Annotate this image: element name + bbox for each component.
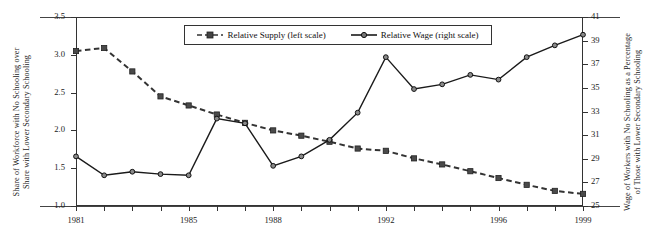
series-marker: [130, 169, 135, 174]
series-marker: [73, 48, 78, 53]
legend-swatch-square-dashed-icon: [197, 30, 223, 40]
legend-item-relative-supply[interactable]: Relative Supply (left scale): [197, 30, 325, 40]
series-marker: [355, 146, 360, 151]
series-line: [76, 48, 583, 194]
legend-swatch-circle-solid-icon: [351, 30, 377, 40]
series-marker: [383, 55, 388, 60]
series-marker: [102, 45, 107, 50]
series-marker: [299, 154, 304, 159]
series-marker: [186, 173, 191, 178]
series-marker: [412, 87, 417, 92]
legend-item-relative-wage[interactable]: Relative Wage (right scale): [351, 30, 479, 40]
figure-container: Share of Workforce with No Schooling ove…: [0, 0, 653, 238]
series-marker: [327, 137, 332, 142]
series-marker: [271, 163, 276, 168]
series-marker: [102, 173, 107, 178]
series-marker: [243, 121, 248, 126]
legend-label-relative-wage: Relative Wage (right scale): [381, 30, 479, 40]
legend-label-relative-supply: Relative Supply (left scale): [227, 30, 325, 40]
series-marker: [411, 156, 416, 161]
series-marker: [524, 182, 529, 187]
series-marker: [468, 72, 473, 77]
series-marker: [74, 154, 79, 159]
series-marker: [552, 43, 557, 48]
series-marker: [355, 110, 360, 115]
chart-legend: Relative Supply (left scale) Relative Wa…: [184, 25, 492, 45]
series-marker: [552, 188, 557, 193]
series-marker: [383, 148, 388, 153]
series-marker: [580, 191, 585, 196]
series-marker: [440, 162, 445, 167]
series-marker: [496, 77, 501, 82]
series-marker: [158, 172, 163, 177]
series-marker: [271, 128, 276, 133]
series-line: [76, 35, 583, 176]
series-marker: [440, 82, 445, 87]
series-marker: [581, 32, 586, 37]
series-marker: [496, 175, 501, 180]
series-marker: [186, 103, 191, 108]
series-marker: [468, 169, 473, 174]
series-marker: [214, 116, 219, 121]
series-marker: [524, 55, 529, 60]
series-marker: [130, 69, 135, 74]
series-marker: [299, 133, 304, 138]
series-marker: [158, 94, 163, 99]
series-relative-wage: [74, 32, 586, 177]
